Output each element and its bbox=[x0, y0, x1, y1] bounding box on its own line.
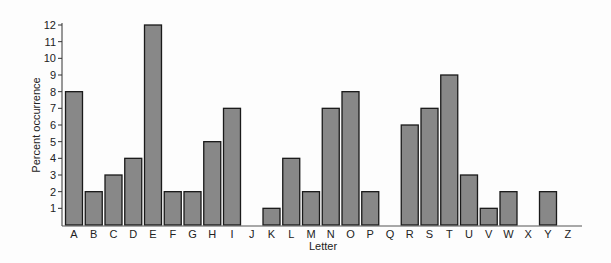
bar-H bbox=[204, 142, 221, 225]
x-tick-Q: Q bbox=[386, 228, 395, 240]
y-tick-6: 6 bbox=[50, 119, 56, 131]
x-tick-K: K bbox=[268, 228, 276, 240]
bar-Y bbox=[540, 192, 557, 225]
y-tick-12: 12 bbox=[44, 19, 56, 31]
x-tick-U: U bbox=[465, 228, 473, 240]
bar-U bbox=[461, 175, 478, 225]
bar-K bbox=[263, 208, 280, 225]
x-tick-L: L bbox=[288, 228, 294, 240]
x-tick-C: C bbox=[110, 228, 118, 240]
y-tick-3: 3 bbox=[50, 169, 56, 181]
y-tick-7: 7 bbox=[50, 102, 56, 114]
bar-T bbox=[441, 75, 458, 225]
x-axis-label: Letter bbox=[309, 240, 337, 252]
bar-G bbox=[184, 192, 201, 225]
x-tick-V: V bbox=[485, 228, 493, 240]
x-tick-J: J bbox=[249, 228, 255, 240]
bar-E bbox=[145, 25, 162, 225]
x-tick-Y: Y bbox=[544, 228, 552, 240]
x-tick-S: S bbox=[426, 228, 433, 240]
bar-C bbox=[105, 175, 122, 225]
x-tick-T: T bbox=[446, 228, 453, 240]
bar-O bbox=[342, 92, 359, 225]
y-tick-2: 2 bbox=[50, 186, 56, 198]
bar-P bbox=[362, 192, 379, 225]
x-tick-G: G bbox=[188, 228, 197, 240]
y-axis-label: Percent occurrence bbox=[30, 77, 42, 172]
x-tick-W: W bbox=[503, 228, 514, 240]
x-tick-O: O bbox=[346, 228, 355, 240]
bars bbox=[66, 25, 557, 225]
letter-frequency-bar-chart: ABCDEFGHIJKLMNOPQRSTUVWXYZ12345678910111… bbox=[0, 0, 611, 263]
x-tick-B: B bbox=[90, 228, 97, 240]
y-tick-8: 8 bbox=[50, 86, 56, 98]
x-tick-I: I bbox=[230, 228, 233, 240]
y-tick-9: 9 bbox=[50, 69, 56, 81]
bar-N bbox=[322, 108, 339, 225]
x-tick-D: D bbox=[129, 228, 137, 240]
bar-W bbox=[500, 192, 517, 225]
x-tick-A: A bbox=[70, 228, 78, 240]
y-tick-4: 4 bbox=[50, 152, 56, 164]
x-tick-E: E bbox=[149, 228, 156, 240]
bar-A bbox=[66, 92, 83, 225]
y-tick-10: 10 bbox=[44, 52, 56, 64]
bar-B bbox=[85, 192, 102, 225]
x-tick-X: X bbox=[525, 228, 533, 240]
bar-V bbox=[480, 208, 497, 225]
bar-F bbox=[164, 192, 181, 225]
x-tick-P: P bbox=[367, 228, 374, 240]
x-tick-M: M bbox=[306, 228, 315, 240]
bar-R bbox=[401, 125, 418, 225]
x-tick-Z: Z bbox=[564, 228, 571, 240]
bar-S bbox=[421, 108, 438, 225]
x-tick-H: H bbox=[208, 228, 216, 240]
y-tick-11: 11 bbox=[45, 36, 56, 48]
x-tick-R: R bbox=[406, 228, 414, 240]
y-tick-1: 1 bbox=[50, 202, 56, 214]
bar-I bbox=[224, 108, 241, 225]
y-tick-5: 5 bbox=[50, 136, 56, 148]
x-tick-F: F bbox=[169, 228, 176, 240]
bar-M bbox=[303, 192, 320, 225]
bar-D bbox=[125, 158, 142, 225]
bar-L bbox=[283, 158, 300, 225]
x-tick-N: N bbox=[327, 228, 335, 240]
